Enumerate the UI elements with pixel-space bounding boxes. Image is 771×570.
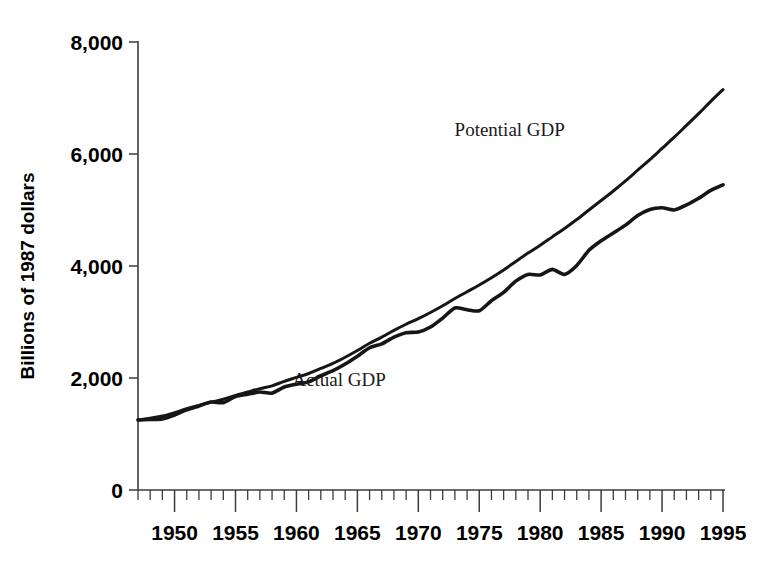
y-tick-label-4000: 4,000 — [70, 255, 123, 278]
chart-canvas: 02,0004,0006,0008,0001950195519601965197… — [0, 0, 771, 570]
x-tick-label-1965: 1965 — [334, 521, 381, 544]
x-tick-label-1990: 1990 — [639, 521, 686, 544]
x-tick-label-1960: 1960 — [273, 521, 320, 544]
x-tick-label-1980: 1980 — [517, 521, 564, 544]
series-line-actual-gdp — [138, 185, 723, 420]
y-axis-title: Billions of 1987 dollars — [17, 173, 38, 380]
series-label-actual-gdp: Actual GDP — [292, 369, 385, 390]
series-label-potential-gdp: Potential GDP — [455, 119, 565, 140]
y-tick-label-6000: 6,000 — [70, 143, 123, 166]
y-tick-label-8000: 8,000 — [70, 31, 123, 54]
x-tick-label-1970: 1970 — [395, 521, 442, 544]
x-tick-label-1985: 1985 — [578, 521, 625, 544]
gdp-chart-figure: 02,0004,0006,0008,0001950195519601965197… — [0, 0, 771, 570]
x-tick-label-1995: 1995 — [700, 521, 747, 544]
series-line-potential-gdp — [138, 90, 723, 420]
x-tick-label-1975: 1975 — [456, 521, 503, 544]
x-tick-label-1955: 1955 — [212, 521, 259, 544]
y-tick-label-0: 0 — [111, 479, 123, 502]
y-tick-label-2000: 2,000 — [70, 367, 123, 390]
x-tick-label-1950: 1950 — [151, 521, 198, 544]
